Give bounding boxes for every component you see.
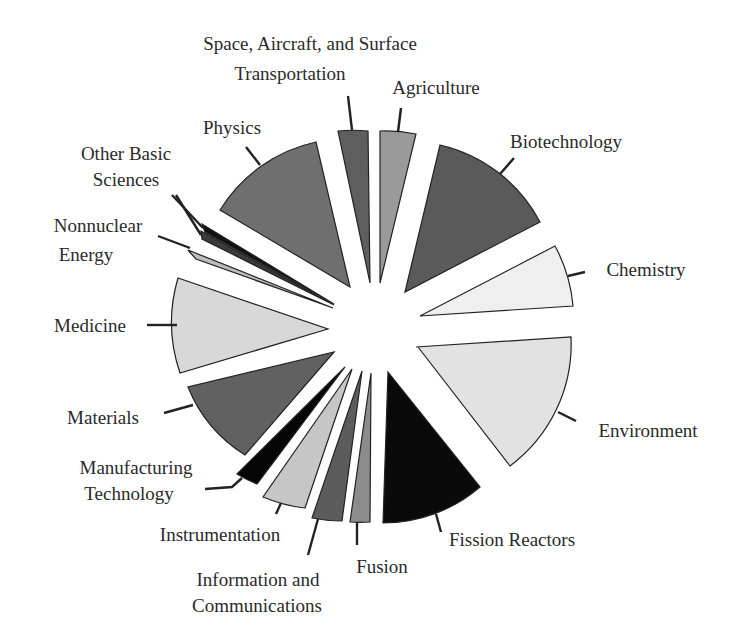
wedge-physics <box>220 142 350 287</box>
leader-line-chemistry <box>568 272 585 276</box>
leader-line-fission-reactors <box>436 514 441 532</box>
label-information-and-communications: Information and <box>197 569 320 590</box>
leader-line-environment <box>558 412 576 421</box>
label-nonnuclear-energy-line2: Energy <box>59 244 114 265</box>
leader-line-space-aircraft-and-surface-transportation <box>348 96 352 130</box>
label-manufacturing-technology: Manufacturing <box>80 457 193 478</box>
leader-line-other-basic-sciences-2 <box>176 195 201 235</box>
wedge-layer <box>172 130 573 523</box>
label-space-aircraft-and-surface-transportation-line2: Transportation <box>234 63 346 84</box>
leader-line-manufacturing-technology <box>205 478 242 489</box>
label-instrumentation: Instrumentation <box>160 524 281 545</box>
label-fission-reactors: Fission Reactors <box>449 529 575 550</box>
label-other-basic-sciences-line2: Sciences <box>93 169 159 190</box>
leader-line-agriculture <box>398 108 401 132</box>
label-fusion: Fusion <box>356 556 408 577</box>
label-biotechnology: Biotechnology <box>510 131 622 152</box>
leader-line-instrumentation <box>276 503 281 514</box>
label-other-basic-sciences: Other Basic <box>81 143 171 164</box>
leader-line-physics <box>246 147 260 165</box>
label-environment: Environment <box>598 420 698 441</box>
label-information-and-communications-line2: Communications <box>192 595 322 616</box>
label-manufacturing-technology-line2: Technology <box>84 483 174 504</box>
leader-line-information-and-communications <box>308 519 318 555</box>
label-space-aircraft-and-surface-transportation: Space, Aircraft, and Surface <box>203 33 417 54</box>
leader-line-materials <box>164 405 193 413</box>
label-nonnuclear-energy: Nonnuclear <box>54 215 143 236</box>
label-physics: Physics <box>203 117 261 138</box>
leader-line-biotechnology <box>500 158 514 174</box>
label-materials: Materials <box>67 407 139 428</box>
wedge-agriculture <box>380 131 416 283</box>
label-medicine: Medicine <box>54 315 126 336</box>
polar-pie-chart: Space, Aircraft, and SurfaceTransportati… <box>0 0 746 642</box>
label-agriculture: Agriculture <box>392 77 480 98</box>
label-chemistry: Chemistry <box>606 259 686 280</box>
leader-line-nonnuclear-energy <box>158 236 190 248</box>
